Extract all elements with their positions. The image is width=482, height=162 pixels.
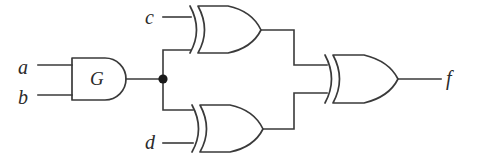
- xor-gate-icon-top: [198, 6, 261, 53]
- xor-gate-back-arc-top: [190, 6, 197, 53]
- input-label-b: b: [18, 87, 28, 107]
- input-label-a: a: [18, 57, 28, 77]
- wire-top-xor-output: [261, 30, 327, 65]
- xor-gate-back-arc-output: [325, 55, 332, 103]
- wire-bottom-xor-output: [263, 93, 327, 129]
- circuit-canvas: [0, 0, 482, 162]
- output-label-f: f: [446, 68, 452, 88]
- xor-gate-back-arc-bottom: [192, 105, 199, 152]
- xor-gate-icon-output: [333, 55, 398, 103]
- xor-gate-icon-bottom: [200, 105, 263, 152]
- and-gate-label: G: [90, 69, 104, 88]
- wire-junction-to-top-xor: [163, 50, 191, 79]
- wire-junction-to-bottom-xor: [163, 79, 193, 110]
- input-label-c: c: [145, 7, 154, 27]
- input-label-d: d: [145, 132, 155, 152]
- logic-circuit-diagram: a b c d f G: [0, 0, 482, 162]
- junction-dot-icon: [158, 74, 167, 83]
